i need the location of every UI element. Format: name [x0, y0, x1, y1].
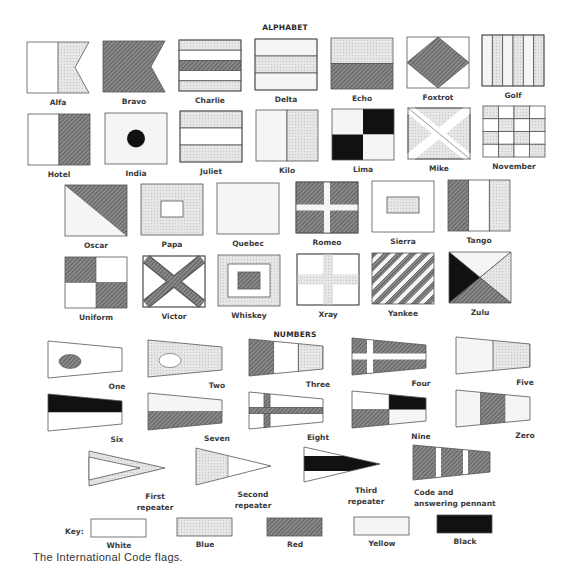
- flag-india: [105, 113, 167, 164]
- flag-kilo: [256, 110, 318, 161]
- key-label-white: White: [107, 541, 132, 550]
- flag-label-whiskey: Whiskey: [231, 311, 266, 320]
- key-label-blue: Blue: [196, 540, 215, 549]
- flag-oscar: [65, 185, 127, 236]
- key-title: Key:: [65, 527, 84, 536]
- substitute-2: [196, 448, 273, 486]
- flag-tango: [448, 180, 510, 231]
- flag-alfa: [27, 42, 89, 93]
- pennant-label-zero: Zero: [515, 431, 534, 440]
- key-swatch-blue: [177, 518, 232, 536]
- pennant-three: [249, 339, 323, 376]
- flag-label-sierra: Sierra: [390, 237, 416, 246]
- pennant-label-three: Three: [306, 380, 330, 389]
- substitute-label-2: Second: [238, 490, 269, 499]
- substitute-4: [413, 440, 493, 485]
- flag-label-yankee: Yankee: [388, 309, 418, 318]
- key-label-yellow: Yellow: [368, 539, 395, 548]
- pennant-label-six: Six: [111, 435, 124, 444]
- pennant-label-four: Four: [411, 379, 430, 388]
- pennant-label-one: One: [109, 382, 126, 391]
- numbers-heading: NUMBERS: [273, 330, 316, 339]
- pennant-seven: [148, 393, 222, 430]
- flag-label-romeo: Romeo: [313, 238, 342, 247]
- pennant-zero: [456, 390, 530, 427]
- pennant-nine: [352, 391, 426, 428]
- key-swatch-white: [91, 519, 146, 537]
- flag-label-bravo: Bravo: [122, 97, 147, 106]
- flag-label-quebec: Quebec: [232, 239, 264, 248]
- flag-label-echo: Echo: [352, 94, 372, 103]
- substitute-label-1: First: [145, 492, 164, 501]
- key-label-black: Black: [454, 537, 477, 546]
- flag-label-juliet: Juliet: [200, 167, 222, 176]
- flag-label-foxtrot: Foxtrot: [423, 93, 454, 102]
- flag-label-hotel: Hotel: [48, 170, 71, 179]
- pennant-six: [48, 394, 122, 431]
- substitute-label-4: answering pennant: [414, 499, 496, 508]
- flag-label-oscar: Oscar: [84, 241, 108, 250]
- flag-bravo: [103, 41, 165, 92]
- pennant-four: [352, 338, 426, 375]
- flag-mike: [408, 108, 470, 159]
- flag-label-papa: Papa: [162, 240, 183, 249]
- flag-label-india: India: [125, 169, 146, 178]
- flag-sierra: [372, 181, 434, 232]
- key-swatch-red: [267, 518, 322, 536]
- flag-november: [483, 106, 545, 157]
- flag-label-golf: Golf: [504, 91, 521, 100]
- flag-label-charlie: Charlie: [195, 96, 225, 105]
- flag-charlie: [179, 40, 241, 91]
- alphabet-heading: ALPHABET: [262, 23, 308, 32]
- pennant-eight: [249, 392, 323, 429]
- pennant-label-two: Two: [209, 381, 225, 390]
- key-label-red: Red: [287, 540, 303, 549]
- flag-foxtrot: [407, 37, 469, 88]
- substitute-label-3: Third: [355, 486, 377, 495]
- flag-label-uniform: Uniform: [79, 313, 113, 322]
- pennant-label-nine: Nine: [411, 432, 430, 441]
- flag-label-victor: Victor: [161, 312, 186, 321]
- flag-label-tango: Tango: [466, 236, 491, 245]
- flag-label-mike: Mike: [429, 164, 449, 173]
- pennant-label-eight: Eight: [307, 433, 329, 442]
- flag-whiskey: [218, 255, 280, 306]
- substitute-label-2: repeater: [235, 501, 272, 510]
- flag-lima: [332, 109, 394, 160]
- flag-romeo: [296, 182, 358, 233]
- flag-label-lima: Lima: [353, 165, 373, 174]
- flag-xray: [297, 254, 359, 305]
- substitute-1: [89, 451, 165, 486]
- flag-uniform: [65, 257, 127, 308]
- pennant-five: [456, 337, 530, 374]
- substitute-label-3: repeater: [348, 497, 385, 506]
- key-swatch-black: [437, 515, 492, 533]
- substitute-3: [304, 440, 384, 486]
- flag-quebec: [217, 183, 279, 234]
- flag-label-november: November: [492, 162, 535, 171]
- flag-label-kilo: Kilo: [279, 166, 295, 175]
- flag-echo: [331, 38, 393, 89]
- flag-label-zulu: Zulu: [471, 308, 490, 317]
- flag-label-alfa: Alfa: [50, 98, 67, 107]
- pennant-label-seven: Seven: [204, 434, 230, 443]
- flag-delta: [255, 39, 317, 90]
- flags-canvas: [0, 0, 568, 578]
- flag-label-delta: Delta: [275, 95, 298, 104]
- substitute-label-4: Code and: [414, 488, 454, 497]
- pennant-label-five: Five: [516, 378, 534, 387]
- flag-hotel: [28, 114, 90, 165]
- figure-caption: The International Code flags.: [33, 551, 183, 563]
- flag-label-xray: Xray: [318, 310, 337, 319]
- flag-juliet: [180, 111, 242, 162]
- key-swatch-yellow: [354, 517, 409, 535]
- substitute-label-1: repeater: [137, 503, 174, 512]
- flag-victor: [143, 256, 205, 307]
- flag-golf: [482, 35, 544, 86]
- flag-papa: [141, 184, 203, 235]
- pennant-one: [48, 341, 122, 378]
- pennant-two: [148, 340, 222, 377]
- flag-zulu: [449, 252, 511, 303]
